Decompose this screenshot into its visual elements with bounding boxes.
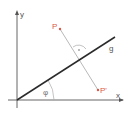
point-p-label: P <box>52 22 57 31</box>
line-g-label: g <box>109 44 113 53</box>
reflection-diagram: y x g φ P P' <box>0 0 132 115</box>
y-axis <box>15 10 19 108</box>
x-axis <box>8 98 124 102</box>
point-p-prime-label: P' <box>100 86 107 95</box>
y-axis-label: y <box>20 10 24 19</box>
point-p-prime <box>97 89 99 91</box>
right-angle-marker <box>73 45 86 51</box>
angle-phi-label: φ <box>43 88 48 97</box>
point-p <box>59 28 61 30</box>
angle-arc <box>48 80 54 100</box>
x-axis-label: x <box>116 91 120 100</box>
